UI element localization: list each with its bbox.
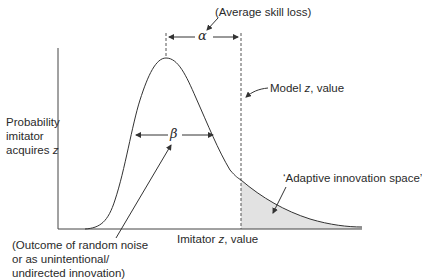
y-axis-label-line1: Probability xyxy=(6,115,60,129)
model-value-label: Model z, value xyxy=(270,81,344,95)
model-value-prefix: Model xyxy=(270,82,305,94)
beta-pointer xyxy=(116,145,171,238)
adaptive-innovation-space-label: ‘Adaptive innovation space’ xyxy=(283,171,422,185)
y-axis-label-line2: imitator xyxy=(6,129,60,143)
random-noise-annotation: (Outcome of random noise or as unintenti… xyxy=(12,238,148,280)
random-noise-line3: undirected innovation) xyxy=(12,266,148,280)
x-axis-label: Imitator z, value xyxy=(177,232,258,246)
random-noise-line2: or as unintentional/ xyxy=(12,252,148,266)
model-pointer xyxy=(246,88,268,97)
beta-symbol: β xyxy=(170,126,178,141)
y-axis-label: Probability imitator acquires z xyxy=(6,115,60,157)
random-noise-line1: (Outcome of random noise xyxy=(12,238,148,252)
adaptive-innovation-shaded-area xyxy=(241,180,362,229)
alpha-symbol: α xyxy=(198,28,207,43)
model-value-suffix: , value xyxy=(310,82,344,94)
average-skill-loss-label: (Average skill loss) xyxy=(215,5,311,19)
alpha-pointer xyxy=(207,18,218,30)
y-axis-label-line3: acquires z xyxy=(6,143,60,157)
